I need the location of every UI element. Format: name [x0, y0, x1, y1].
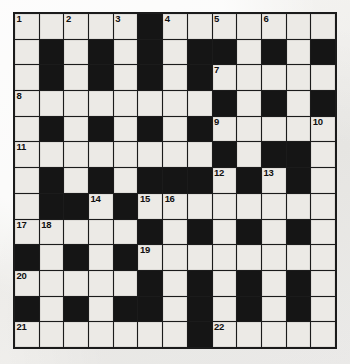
letter-cell[interactable]	[262, 65, 286, 90]
letter-cell[interactable]	[64, 271, 88, 296]
letter-cell[interactable]	[237, 91, 261, 116]
letter-cell[interactable]	[64, 142, 88, 167]
letter-cell[interactable]: 11	[15, 142, 39, 167]
letter-cell[interactable]	[188, 142, 212, 167]
letter-cell[interactable]	[89, 14, 113, 39]
letter-cell[interactable]: 12	[213, 168, 237, 193]
letter-cell[interactable]	[114, 271, 138, 296]
letter-cell[interactable]	[89, 220, 113, 245]
letter-cell[interactable]	[89, 142, 113, 167]
letter-cell[interactable]: 7	[213, 65, 237, 90]
letter-cell[interactable]: 15	[138, 194, 162, 219]
letter-cell[interactable]: 3	[114, 14, 138, 39]
letter-cell[interactable]	[287, 14, 311, 39]
letter-cell[interactable]	[40, 91, 64, 116]
letter-cell[interactable]	[237, 117, 261, 142]
letter-cell[interactable]	[262, 297, 286, 322]
letter-cell[interactable]	[15, 117, 39, 142]
letter-cell[interactable]	[15, 40, 39, 65]
letter-cell[interactable]	[188, 14, 212, 39]
letter-cell[interactable]	[287, 117, 311, 142]
letter-cell[interactable]: 13	[262, 168, 286, 193]
letter-cell[interactable]	[114, 117, 138, 142]
letter-cell[interactable]: 4	[163, 14, 187, 39]
letter-cell[interactable]	[311, 271, 335, 296]
letter-cell[interactable]	[163, 245, 187, 270]
letter-cell[interactable]	[64, 322, 88, 347]
letter-cell[interactable]: 22	[213, 322, 237, 347]
letter-cell[interactable]	[213, 194, 237, 219]
letter-cell[interactable]: 8	[15, 91, 39, 116]
letter-cell[interactable]	[163, 220, 187, 245]
letter-cell[interactable]	[64, 91, 88, 116]
letter-cell[interactable]	[237, 14, 261, 39]
letter-cell[interactable]	[287, 40, 311, 65]
letter-cell[interactable]	[138, 322, 162, 347]
letter-cell[interactable]: 2	[64, 14, 88, 39]
letter-cell[interactable]	[114, 65, 138, 90]
letter-cell[interactable]	[163, 65, 187, 90]
letter-cell[interactable]	[262, 322, 286, 347]
letter-cell[interactable]: 17	[15, 220, 39, 245]
letter-cell[interactable]	[213, 271, 237, 296]
letter-cell[interactable]	[311, 245, 335, 270]
letter-cell[interactable]	[40, 322, 64, 347]
letter-cell[interactable]: 21	[15, 322, 39, 347]
letter-cell[interactable]	[287, 245, 311, 270]
letter-cell[interactable]	[163, 297, 187, 322]
letter-cell[interactable]	[287, 91, 311, 116]
letter-cell[interactable]	[163, 142, 187, 167]
letter-cell[interactable]	[64, 65, 88, 90]
letter-cell[interactable]: 10	[311, 117, 335, 142]
letter-cell[interactable]	[163, 91, 187, 116]
letter-cell[interactable]	[311, 142, 335, 167]
letter-cell[interactable]: 6	[262, 14, 286, 39]
letter-cell[interactable]	[40, 245, 64, 270]
letter-cell[interactable]	[64, 117, 88, 142]
letter-cell[interactable]	[89, 271, 113, 296]
letter-cell[interactable]	[163, 322, 187, 347]
letter-cell[interactable]	[64, 40, 88, 65]
letter-cell[interactable]	[163, 117, 187, 142]
letter-cell[interactable]	[40, 271, 64, 296]
letter-cell[interactable]	[287, 194, 311, 219]
letter-cell[interactable]: 20	[15, 271, 39, 296]
letter-cell[interactable]	[188, 91, 212, 116]
letter-cell[interactable]	[262, 245, 286, 270]
letter-cell[interactable]	[287, 322, 311, 347]
letter-cell[interactable]	[114, 220, 138, 245]
letter-cell[interactable]	[287, 65, 311, 90]
letter-cell[interactable]	[40, 14, 64, 39]
letter-cell[interactable]: 5	[213, 14, 237, 39]
letter-cell[interactable]	[138, 91, 162, 116]
letter-cell[interactable]	[262, 220, 286, 245]
letter-cell[interactable]: 1	[15, 14, 39, 39]
crossword-grid[interactable]: 12345678910111213141516171819202122	[13, 12, 337, 349]
letter-cell[interactable]	[40, 297, 64, 322]
letter-cell[interactable]	[237, 65, 261, 90]
letter-cell[interactable]	[114, 322, 138, 347]
letter-cell[interactable]: 18	[40, 220, 64, 245]
letter-cell[interactable]	[114, 168, 138, 193]
letter-cell[interactable]	[15, 168, 39, 193]
letter-cell[interactable]	[89, 91, 113, 116]
letter-cell[interactable]: 9	[213, 117, 237, 142]
letter-cell[interactable]: 16	[163, 194, 187, 219]
letter-cell[interactable]	[237, 322, 261, 347]
letter-cell[interactable]	[237, 40, 261, 65]
letter-cell[interactable]	[15, 194, 39, 219]
letter-cell[interactable]: 19	[138, 245, 162, 270]
letter-cell[interactable]	[188, 194, 212, 219]
letter-cell[interactable]	[311, 322, 335, 347]
letter-cell[interactable]	[311, 168, 335, 193]
letter-cell[interactable]	[89, 297, 113, 322]
letter-cell[interactable]	[163, 271, 187, 296]
letter-cell[interactable]	[15, 65, 39, 90]
letter-cell[interactable]	[114, 91, 138, 116]
letter-cell[interactable]	[262, 194, 286, 219]
letter-cell[interactable]	[213, 245, 237, 270]
letter-cell[interactable]	[262, 117, 286, 142]
letter-cell[interactable]: 14	[89, 194, 113, 219]
letter-cell[interactable]	[89, 245, 113, 270]
letter-cell[interactable]	[40, 142, 64, 167]
